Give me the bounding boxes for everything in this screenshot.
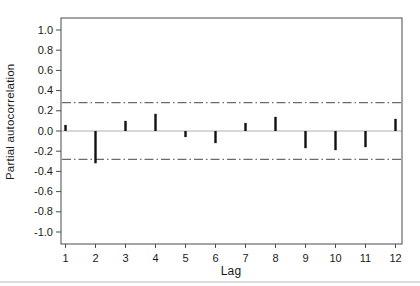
x-tick-label: 1 bbox=[62, 252, 68, 264]
x-tick-label: 9 bbox=[302, 252, 308, 264]
x-tick-label: 4 bbox=[152, 252, 158, 264]
x-axis-title: Lag bbox=[161, 264, 301, 278]
x-tick-label: 11 bbox=[360, 252, 371, 264]
y-tick-label: 1.0 bbox=[38, 24, 53, 36]
screenshot-bottom-edge bbox=[0, 281, 420, 283]
x-tick-label: 3 bbox=[122, 252, 128, 264]
y-tick-label: 0.0 bbox=[38, 125, 53, 137]
y-tick-label: -1.0 bbox=[34, 226, 53, 238]
x-tick-label: 5 bbox=[182, 252, 188, 264]
pacf-chart-canvas: 1.00.80.60.40.20.0-0.2-0.4-0.6-0.8-1.012… bbox=[0, 0, 420, 286]
x-tick-label: 12 bbox=[389, 252, 401, 264]
y-tick-label: -0.8 bbox=[34, 205, 53, 217]
y-tick-label: -0.2 bbox=[34, 145, 53, 157]
x-tick-label: 2 bbox=[92, 252, 98, 264]
y-tick-label: 0.6 bbox=[38, 64, 53, 76]
y-tick-label: 0.2 bbox=[38, 104, 53, 116]
pacf-plot-screenshot: 1.00.80.60.40.20.0-0.2-0.4-0.6-0.8-1.012… bbox=[0, 0, 420, 286]
y-axis-title: Partial autocorrelation bbox=[4, 80, 16, 180]
y-tick-label: 0.4 bbox=[38, 84, 53, 96]
y-tick-label: 0.8 bbox=[38, 44, 53, 56]
y-tick-label: -0.4 bbox=[34, 165, 53, 177]
y-tick-label: -0.6 bbox=[34, 185, 53, 197]
x-tick-label: 6 bbox=[212, 252, 218, 264]
x-tick-label: 7 bbox=[242, 252, 248, 264]
x-tick-label: 8 bbox=[272, 252, 278, 264]
x-tick-label: 10 bbox=[329, 252, 341, 264]
